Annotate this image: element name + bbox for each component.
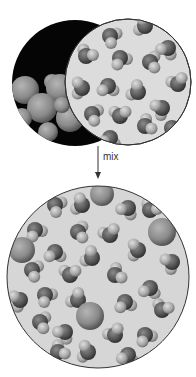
hydrogen-atom (88, 115, 100, 127)
hydrogen-atom (69, 265, 81, 277)
hydrogen-atom (176, 72, 188, 84)
hydrogen-atom (163, 302, 175, 314)
hydrogen-atom (108, 223, 120, 235)
hydrogen-atom (131, 79, 143, 91)
mix-arrow (95, 146, 101, 179)
oxygen-atom (164, 120, 180, 136)
solute-sphere (9, 237, 35, 263)
hydrogen-atom (115, 203, 127, 215)
hydrogen-atom (112, 322, 124, 334)
solute-sphere (148, 218, 176, 246)
mix-label: mix (103, 151, 119, 163)
hydrogen-atom (85, 245, 97, 257)
water-molecule (164, 120, 185, 141)
hydrogen-atom (72, 77, 84, 89)
mixing-diagram (0, 0, 196, 377)
hydrogen-atom (74, 192, 86, 204)
mixture-circle (7, 182, 189, 368)
hydrogen-atom (128, 239, 140, 251)
solute-sphere (76, 302, 104, 330)
hydrogen-atom (114, 301, 126, 313)
hydrogen-atom (116, 352, 128, 364)
hydrogen-atom (87, 49, 99, 61)
hydrogen-atom (149, 99, 161, 111)
hydrogen-atom (116, 272, 128, 284)
arrow-down-icon (95, 172, 101, 179)
hydrogen-atom (159, 253, 171, 265)
solute-sphere (38, 122, 58, 142)
hydrogen-atom (111, 59, 123, 71)
hydrogen-atom (28, 271, 40, 283)
hydrogen-atom (37, 322, 49, 334)
hydrogen-atom (52, 326, 64, 338)
hydrogen-atom (165, 129, 177, 141)
hydrogen-atom (138, 285, 150, 297)
hydrogen-atom (50, 206, 62, 218)
hydrogen-atom (44, 250, 56, 262)
hydrogen-atom (79, 340, 91, 352)
hydrogen-atom (105, 37, 117, 49)
hydrogen-atom (59, 347, 71, 359)
hydrogen-atom (38, 296, 50, 308)
hydrogen-atom (146, 123, 158, 135)
solute-sphere (12, 108, 32, 128)
hydrogen-atom (72, 287, 84, 299)
hydrogen-atom (148, 61, 160, 73)
hydrogen-atom (76, 231, 88, 243)
hydrogen-atom (97, 84, 109, 96)
hydrogen-atom (119, 106, 131, 118)
hydrogen-atom (136, 336, 148, 348)
hydrogen-atom (137, 13, 149, 25)
